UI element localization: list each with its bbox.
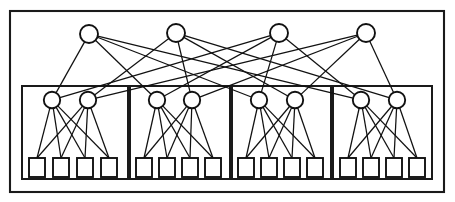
top-node-2[interactable] — [167, 24, 185, 42]
hidden-node-1[interactable] — [44, 92, 60, 108]
input-node-2[interactable] — [53, 158, 69, 177]
hidden-node-6[interactable] — [287, 92, 303, 108]
input-node-7[interactable] — [182, 158, 198, 177]
input-node-8[interactable] — [205, 158, 221, 177]
network-diagram-svg — [0, 0, 455, 202]
input-node-11[interactable] — [284, 158, 300, 177]
hidden-node-2[interactable] — [80, 92, 96, 108]
input-node-13[interactable] — [340, 158, 356, 177]
input-node-15[interactable] — [386, 158, 402, 177]
input-node-1[interactable] — [29, 158, 45, 177]
input-node-12[interactable] — [307, 158, 323, 177]
input-node-5[interactable] — [136, 158, 152, 177]
top-node-4[interactable] — [357, 24, 375, 42]
hidden-node-7[interactable] — [353, 92, 369, 108]
input-node-10[interactable] — [261, 158, 277, 177]
input-node-6[interactable] — [159, 158, 175, 177]
top-node-1[interactable] — [80, 25, 98, 43]
input-node-3[interactable] — [77, 158, 93, 177]
hidden-node-4[interactable] — [184, 92, 200, 108]
input-node-16[interactable] — [409, 158, 425, 177]
input-node-4[interactable] — [101, 158, 117, 177]
hidden-node-8[interactable] — [389, 92, 405, 108]
input-node-14[interactable] — [363, 158, 379, 177]
network-diagram-root — [0, 0, 455, 202]
hidden-node-5[interactable] — [251, 92, 267, 108]
top-node-3[interactable] — [270, 24, 288, 42]
input-node-9[interactable] — [238, 158, 254, 177]
hidden-node-3[interactable] — [149, 92, 165, 108]
